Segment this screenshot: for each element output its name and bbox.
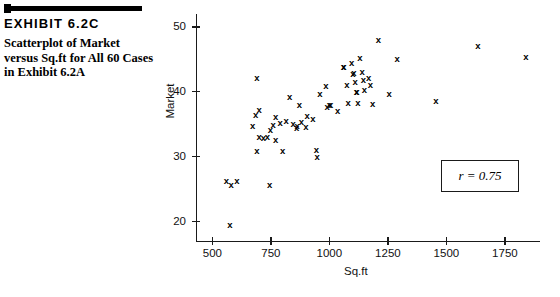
data-point-marker: x xyxy=(273,135,278,145)
x-tick-label: 750 xyxy=(251,247,291,259)
data-point-marker: x xyxy=(345,98,350,108)
data-point-marker: x xyxy=(362,85,367,95)
data-point-marker: x xyxy=(328,100,333,110)
y-tick-label: 20 xyxy=(160,215,186,227)
data-point-marker: x xyxy=(310,114,315,124)
data-point-marker: x xyxy=(254,73,259,83)
y-axis-line xyxy=(196,14,197,242)
x-tick-label: 1250 xyxy=(368,247,408,259)
data-point-marker: x xyxy=(227,220,232,230)
x-tick-mark xyxy=(446,237,447,245)
data-point-marker: x xyxy=(323,81,328,91)
data-point-marker: x xyxy=(344,81,349,91)
y-tick-mark xyxy=(192,91,200,92)
data-point-marker: x xyxy=(253,110,258,120)
data-point-marker: x xyxy=(315,153,320,163)
data-point-marker: x xyxy=(305,112,310,122)
x-tick-label: 1750 xyxy=(485,247,525,259)
data-point-marker: x xyxy=(280,146,285,156)
data-point-marker: x xyxy=(523,52,528,62)
data-point-marker: x xyxy=(234,176,239,186)
data-point-marker: x xyxy=(250,121,255,131)
data-point-marker: x xyxy=(341,62,346,72)
data-point-marker: x xyxy=(265,132,270,142)
data-point-marker: x xyxy=(349,58,354,68)
scatterplot: 20304050 5007501000125015001750 xxxxxxxx… xyxy=(0,0,560,297)
x-tick-mark xyxy=(504,237,505,245)
data-point-marker: x xyxy=(386,90,391,100)
x-axis-line xyxy=(196,241,540,242)
x-tick-mark xyxy=(329,237,330,245)
data-point-marker: x xyxy=(376,35,381,45)
data-point-marker: x xyxy=(317,90,322,100)
data-point-marker: x xyxy=(335,106,340,116)
x-tick-mark xyxy=(212,237,213,245)
x-tick-mark xyxy=(270,237,271,245)
x-tick-label: 500 xyxy=(192,247,232,259)
data-point-marker: x xyxy=(354,88,359,98)
data-point-marker: x xyxy=(368,80,373,90)
correlation-annotation-box: r = 0.75 xyxy=(441,160,519,192)
data-point-marker: x xyxy=(287,92,292,102)
y-tick-mark xyxy=(192,156,200,157)
y-tick-mark xyxy=(192,26,200,27)
y-tick-mark xyxy=(192,221,200,222)
data-point-marker: x xyxy=(254,146,259,156)
data-point-marker: x xyxy=(357,53,362,63)
data-point-marker: x xyxy=(303,122,308,132)
data-point-marker: x xyxy=(297,100,302,110)
x-tick-mark xyxy=(387,237,388,245)
y-axis-title: Market xyxy=(164,83,176,118)
data-point-marker: x xyxy=(370,99,375,109)
data-point-marker: x xyxy=(475,42,480,52)
data-point-marker: x xyxy=(278,118,283,128)
data-point-marker: x xyxy=(355,98,360,108)
data-point-marker: x xyxy=(433,96,438,106)
x-tick-label: 1000 xyxy=(309,247,349,259)
data-point-marker: x xyxy=(395,55,400,65)
y-tick-label: 30 xyxy=(160,150,186,162)
x-axis-title: Sq.ft xyxy=(344,265,368,277)
data-point-marker: x xyxy=(283,116,288,126)
correlation-value: r = 0.75 xyxy=(458,168,501,184)
x-tick-label: 1500 xyxy=(426,247,466,259)
data-point-marker: x xyxy=(267,180,272,190)
data-point-marker: x xyxy=(228,180,233,190)
y-tick-label: 50 xyxy=(160,20,186,32)
